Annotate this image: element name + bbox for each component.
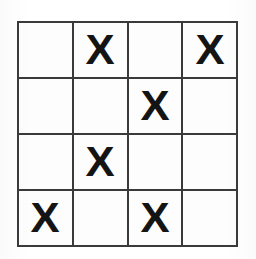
grid-cell-r4c2[interactable] — [74, 191, 127, 245]
grid-cell-r3c1[interactable] — [19, 135, 72, 189]
cell-mark: X — [140, 85, 169, 127]
grid-cell-r4c3[interactable]: X — [129, 191, 182, 245]
grid-cell-r1c2[interactable]: X — [74, 23, 127, 77]
grid-cell-r3c4[interactable] — [183, 135, 236, 189]
grid-cell-r4c4[interactable] — [183, 191, 236, 245]
page-root: X X X X X — [0, 0, 256, 259]
cell-mark: X — [195, 29, 224, 71]
cell-mark: X — [140, 197, 169, 239]
cell-mark: X — [86, 29, 115, 71]
grid-cell-r3c2[interactable]: X — [74, 135, 127, 189]
grid-cell-r2c1[interactable] — [19, 79, 72, 133]
grid-cell-r1c1[interactable] — [19, 23, 72, 77]
grid-board: X X X X X — [17, 21, 238, 247]
cell-mark: X — [31, 197, 60, 239]
grid-cell-r2c3[interactable]: X — [129, 79, 182, 133]
grid-cell-r3c3[interactable] — [129, 135, 182, 189]
grid-cell-r1c3[interactable] — [129, 23, 182, 77]
grid-cell-r1c4[interactable]: X — [183, 23, 236, 77]
grid-cell-r4c1[interactable]: X — [19, 191, 72, 245]
grid-cell-r2c4[interactable] — [183, 79, 236, 133]
grid-cell-r2c2[interactable] — [74, 79, 127, 133]
cell-mark: X — [86, 141, 115, 183]
